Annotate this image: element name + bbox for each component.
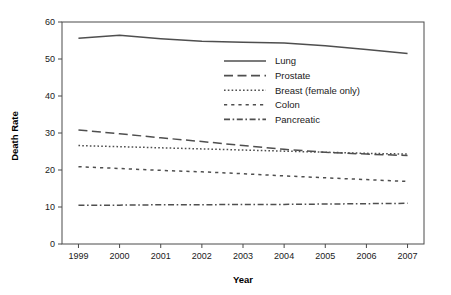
y-tick-label: 40 (45, 91, 55, 101)
x-tick-label: 2004 (274, 251, 294, 261)
chart-legend: LungProstateBreast (female only)ColonPan… (224, 55, 360, 124)
x-tick-label: 2002 (192, 251, 212, 261)
y-tick-label: 30 (45, 128, 55, 138)
line-chart: 0102030405060 19992000200120022003200420… (0, 0, 451, 295)
x-tick-label: 2003 (233, 251, 253, 261)
y-axis-title: Death Rate (9, 111, 20, 161)
legend-label-3: Breast (female only) (275, 85, 360, 96)
series-line-pancreatic (78, 203, 407, 205)
legend-label-5: Pancreatic (275, 114, 320, 125)
plot-border (62, 22, 424, 244)
y-tick-label: 10 (45, 202, 55, 212)
y-axis-ticks: 0102030405060 (45, 17, 62, 249)
series-line-prostate (78, 130, 407, 156)
x-axis-title: Year (233, 274, 253, 285)
legend-label-4: Colon (275, 99, 300, 110)
plot-frame (62, 22, 424, 244)
x-axis-ticks: 199920002001200220032004200520062007 (68, 244, 417, 261)
chart-figure: 0102030405060 19992000200120022003200420… (0, 0, 451, 295)
x-tick-label: 1999 (68, 251, 88, 261)
y-tick-label: 60 (45, 17, 55, 27)
y-tick-label: 50 (45, 54, 55, 64)
legend-label-1: Lung (275, 55, 296, 66)
x-tick-label: 2000 (110, 251, 130, 261)
x-tick-label: 2001 (151, 251, 171, 261)
y-tick-label: 0 (50, 239, 55, 249)
series-line-lung (78, 35, 407, 53)
legend-label-2: Prostate (275, 70, 310, 81)
x-tick-label: 2006 (356, 251, 376, 261)
series-line-breast-female-only (78, 146, 407, 155)
x-tick-label: 2005 (315, 251, 335, 261)
y-tick-label: 20 (45, 165, 55, 175)
series-line-colon (78, 167, 407, 182)
x-tick-label: 2007 (398, 251, 418, 261)
